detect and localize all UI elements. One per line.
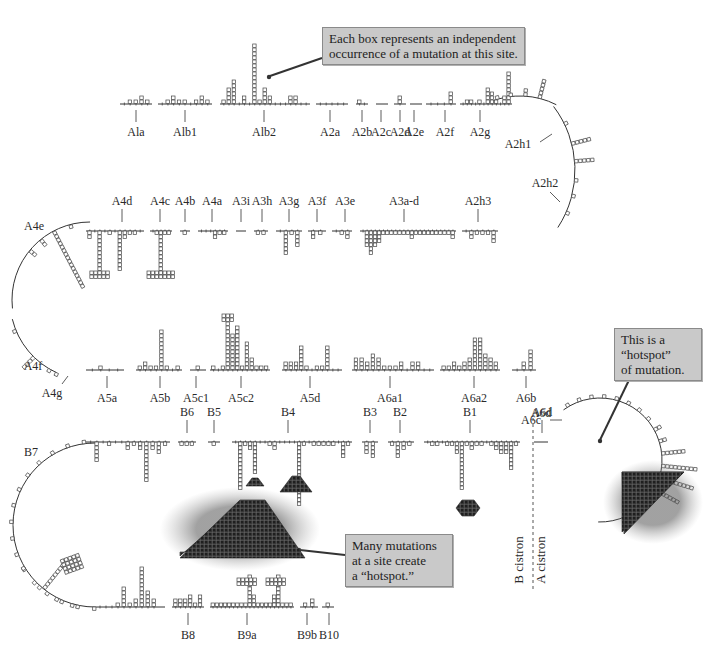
mutation-box-B4 (239, 462, 242, 465)
hotspot-cap-box (245, 578, 248, 581)
mutation-box-A5c2 (226, 326, 229, 329)
mutation-box-A5d (320, 366, 323, 369)
mutation-box-A6a2 (489, 358, 492, 361)
label-A5b: A5b (150, 391, 171, 405)
hotspot-B4-left (246, 478, 264, 486)
mutation-box-Alb1 (172, 100, 175, 103)
mutation-box-A5c2 (236, 330, 239, 333)
mutation-box-Alb2 (253, 44, 256, 47)
mutation-box-A2h1 (540, 87, 544, 91)
mutation-box-B7 (157, 446, 160, 449)
mutation-box-A4a (213, 235, 216, 238)
mutation-box-Alb1 (206, 100, 209, 103)
mutation-box-B7 (45, 591, 50, 596)
mutation-box-A2h1 (542, 79, 546, 83)
mutation-box-A5c2 (236, 342, 239, 345)
mutation-box-A5c2 (236, 362, 239, 365)
mutation-box-A6a2 (478, 346, 481, 349)
mutation-box-A5c2 (226, 334, 229, 337)
mutation-box-A2h2 (564, 121, 569, 126)
mutation-box-A2g (507, 72, 510, 75)
hotspot-cap-box (159, 271, 162, 274)
mutation-box-B7 (116, 603, 119, 606)
hotspot-cap-box (241, 578, 244, 581)
mutation-box-A5c2 (245, 366, 248, 369)
mutation-box-A5a (99, 366, 102, 369)
mutation-box-A6b (529, 362, 532, 365)
hotspot-cap-box (282, 582, 285, 585)
mutation-box-B4 (268, 442, 271, 445)
mutation-box-B1 (455, 442, 458, 445)
mutation-box-A3a-d (373, 235, 376, 238)
mutation-box-B4 (239, 442, 242, 445)
mutation-box-A6a1 (377, 358, 380, 361)
mutation-box-A6a1 (371, 366, 374, 369)
mutation-box-A6c (681, 449, 685, 453)
mutation-box-A4d (98, 231, 101, 234)
label-A3f: A3f (308, 194, 327, 208)
mutation-box-Alb2 (263, 100, 266, 103)
label-A2e: A2e (404, 125, 424, 139)
mutation-box-A4e (69, 225, 73, 229)
mutation-box-A4d (118, 255, 121, 258)
hotspot-cap-box (253, 578, 256, 581)
mutation-box-A4c (159, 247, 162, 250)
mutation-box-B8 (179, 599, 182, 602)
hotspot-cap-box (155, 271, 158, 274)
mutation-box-B4 (253, 454, 256, 457)
mutation-box-A5c2 (226, 366, 229, 369)
label-leader (540, 134, 552, 142)
mutation-box-Alb2 (263, 92, 266, 95)
mutation-box-A5c2 (236, 334, 239, 337)
mutation-box-B9a (248, 603, 251, 606)
mutation-box-A3a-d (369, 243, 372, 246)
mutation-box-Alb1 (200, 100, 203, 103)
mutation-box-A6a1 (354, 362, 357, 365)
mutation-box-B7 (32, 580, 37, 585)
mutation-box-A5b (160, 354, 163, 357)
mutation-box-B3 (371, 442, 374, 445)
mutation-box-A6a1 (371, 354, 374, 357)
mutation-box-A6a1 (416, 366, 419, 369)
mutation-box-Alb2 (253, 56, 256, 59)
mutation-box-B9a (244, 603, 247, 606)
mutation-box-B4 (248, 446, 251, 449)
hotspot-cap-box (151, 271, 154, 274)
mutation-box-B7 (122, 603, 125, 606)
mutation-box-A5c2 (245, 342, 248, 345)
label-A3a-d: A3a-d (389, 194, 419, 208)
mutation-box-A4d (88, 235, 91, 238)
callout-pointer-dot (267, 75, 271, 79)
callout-hotspot-right: This is a “hotspot” of mutation. (614, 328, 702, 381)
mutation-box-A6a2 (484, 354, 487, 357)
mutation-box-B7 (128, 603, 131, 606)
mutation-box-A4c (159, 251, 162, 254)
label-A3g: A3g (279, 194, 300, 208)
mutation-box-A4d (98, 251, 101, 254)
mutation-box-A2h1 (541, 83, 545, 87)
mutation-box-A5c2 (240, 366, 243, 369)
mutation-box-A6a2 (473, 366, 476, 369)
hotspot-cap-box (102, 271, 105, 274)
mutation-box-A6a2 (452, 366, 455, 369)
mutation-box-A5b (176, 366, 179, 369)
mutation-box-A4d (118, 267, 121, 270)
mutation-box-A5c2 (231, 366, 234, 369)
mutation-box-B7 (145, 446, 148, 449)
mutation-box-A6c (602, 395, 606, 399)
mutation-box-B7 (145, 462, 148, 465)
mutation-box-A3a-d (377, 231, 380, 234)
mutation-box-A3f (319, 231, 322, 234)
mutation-box-A6a2 (478, 358, 481, 361)
mutation-box-Alb2 (253, 52, 256, 55)
mutation-box-B4 (273, 446, 276, 449)
mutation-box-A2h3 (481, 231, 484, 234)
mutation-box-A6c (565, 403, 570, 408)
mutation-box-A5c2 (236, 350, 239, 353)
mutation-box-B4 (239, 470, 242, 473)
mutation-box-Ala (128, 100, 131, 103)
hotspot-cap-box (282, 578, 285, 581)
mutation-box-B4 (341, 442, 344, 445)
mutation-box-B2 (390, 442, 393, 445)
mutation-box-A6a2 (473, 354, 476, 357)
